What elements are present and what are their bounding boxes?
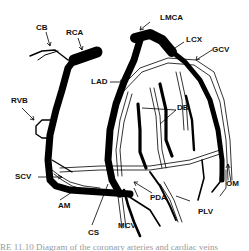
label-lad: LAD xyxy=(91,78,107,86)
label-lcx: LCX xyxy=(186,36,202,44)
label-mcv: MCV xyxy=(118,222,136,230)
label-lmca: LMCA xyxy=(160,14,183,22)
label-rvb: RVB xyxy=(11,97,28,105)
label-am: AM xyxy=(58,202,70,210)
label-cs: CS xyxy=(88,229,99,237)
label-scv: SCV xyxy=(15,173,31,181)
label-db: DB xyxy=(177,104,189,112)
label-plv: PLV xyxy=(198,208,213,216)
label-pda: PDA xyxy=(150,194,167,202)
label-cb: CB xyxy=(36,24,48,32)
label-rca: RCA xyxy=(66,29,83,37)
figure-caption: RE 11.10 Diagram of the coronary arterie… xyxy=(0,243,249,251)
label-om: OM xyxy=(226,180,239,188)
label-gcv: GCV xyxy=(212,46,229,54)
cardiac-veins xyxy=(52,58,232,228)
